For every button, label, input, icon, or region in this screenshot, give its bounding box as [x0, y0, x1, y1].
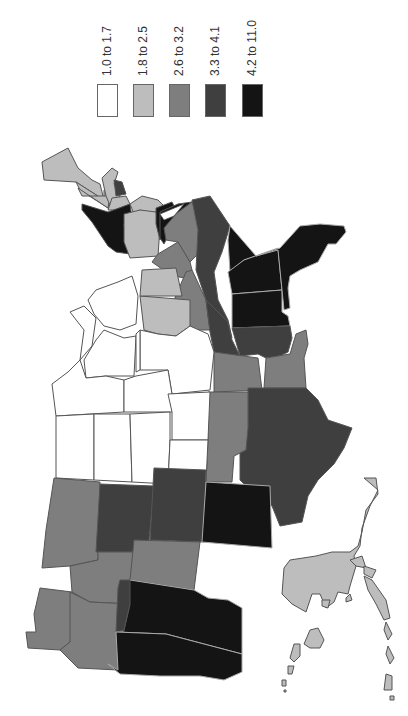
alaska-panhandle-4	[384, 674, 392, 690]
state-colorado	[150, 468, 206, 542]
alaska-island-2	[364, 566, 376, 578]
alaska-dot	[390, 696, 394, 700]
state-rhode-island	[114, 180, 126, 196]
hawaii-big-island	[304, 628, 324, 648]
state-mississippi	[232, 326, 292, 358]
state-north-dakota	[56, 414, 94, 480]
state-south-dakota	[94, 414, 132, 482]
alaska-island-4	[346, 594, 352, 602]
alaska-panhandle-3	[386, 646, 394, 664]
alaska-panhandle-2	[384, 622, 392, 640]
state-pennsylvania	[124, 210, 160, 258]
state-alabama	[232, 290, 290, 328]
state-ohio	[140, 296, 190, 336]
state-montana	[42, 478, 100, 568]
hawaii-kauai	[282, 680, 286, 686]
state-arkansas	[214, 352, 262, 392]
state-missouri	[168, 392, 210, 440]
state-new-mexico	[202, 482, 272, 548]
state-indiana-white	[136, 330, 140, 372]
choropleth-map: 1.0 to 1.7 1.8 to 2.5 2.6 to 3.2 3.3 to …	[0, 0, 408, 716]
map-svg	[0, 0, 408, 716]
alaska-island-3	[322, 600, 330, 608]
state-maine	[42, 148, 104, 200]
hawaii-maui	[290, 644, 300, 662]
hawaii-niihau	[284, 690, 286, 692]
state-indiana	[140, 268, 182, 296]
alaska-panhandle	[364, 576, 390, 620]
hawaii-oahu	[288, 666, 294, 674]
